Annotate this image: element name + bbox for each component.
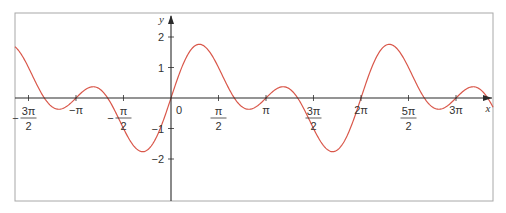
svg-text:2: 2 bbox=[310, 120, 316, 132]
svg-text:−: − bbox=[12, 112, 18, 124]
x-tick-label: 5π2 bbox=[401, 105, 417, 132]
x-axis-arrow-icon bbox=[483, 95, 492, 101]
svg-text:3π: 3π bbox=[307, 105, 321, 117]
svg-text:π: π bbox=[215, 105, 223, 117]
x-tick-label: 3π2 bbox=[305, 105, 321, 132]
y-tick-label: 2 bbox=[158, 31, 164, 43]
x-tick-label: 2π bbox=[354, 104, 368, 116]
svg-text:2: 2 bbox=[120, 120, 126, 132]
chart: 3π2−−ππ2−0π2π3π22π5π23π21−1−2yx bbox=[0, 0, 506, 213]
x-tick-label: π2 bbox=[211, 105, 227, 132]
y-tick-label: −2 bbox=[151, 153, 164, 165]
y-tick-label: 1 bbox=[158, 62, 164, 74]
y-axis-label: y bbox=[158, 13, 164, 25]
svg-text:5π: 5π bbox=[402, 105, 416, 117]
y-tick-label: −1 bbox=[151, 123, 164, 135]
x-tick-label: 3π2− bbox=[12, 105, 36, 132]
x-tick-label: −π bbox=[69, 104, 83, 116]
y-axis-arrow-icon bbox=[168, 15, 174, 24]
svg-text:π: π bbox=[120, 105, 128, 117]
svg-text:−: − bbox=[107, 112, 113, 124]
x-tick-label: 3π bbox=[449, 104, 463, 116]
x-tick-label: π bbox=[262, 104, 270, 116]
x-axis-label: x bbox=[485, 102, 491, 114]
svg-text:3π: 3π bbox=[22, 105, 36, 117]
svg-text:2: 2 bbox=[25, 120, 31, 132]
x-tick-label: π2− bbox=[107, 105, 131, 132]
svg-text:2: 2 bbox=[405, 120, 411, 132]
plot-frame bbox=[15, 13, 493, 201]
x-tick-label: 0 bbox=[176, 104, 182, 116]
svg-text:2: 2 bbox=[215, 120, 221, 132]
